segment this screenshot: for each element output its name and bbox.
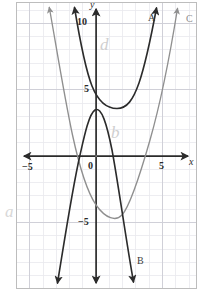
- y-axis-label: y: [90, 0, 94, 10]
- graph-figure: −5 0 5 10 5 −5 x y A B C d b a: [0, 0, 199, 300]
- x-axis-label: x: [189, 157, 193, 167]
- x-tick-label-5: 5: [159, 161, 164, 171]
- x-tick-label-minus5: −5: [22, 162, 33, 172]
- y-tick-label-5: 5: [84, 84, 89, 94]
- curve-label-B: B: [137, 256, 144, 266]
- annotation-label-a: a: [5, 203, 14, 220]
- origin-dot: [95, 155, 97, 157]
- annotation-label-b: b: [111, 124, 120, 141]
- curve-label-A: A: [148, 13, 155, 23]
- annotation-label-d: d: [100, 36, 109, 53]
- y-tick-label-10: 10: [77, 17, 87, 27]
- curve-label-C: C: [186, 14, 193, 24]
- y-tick-label-minus5: −5: [78, 217, 89, 227]
- origin-label: 0: [88, 161, 93, 171]
